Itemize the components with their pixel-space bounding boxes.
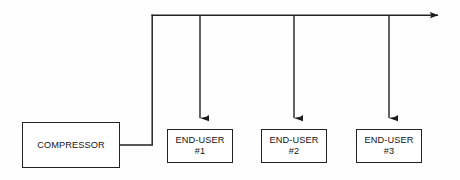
node-enduser-3-label-line-1: END-USER [365, 135, 414, 146]
diagram-canvas: COMPRESSOR END-USER #1 END-USER #2 END-U… [0, 0, 460, 180]
node-enduser-2: END-USER #2 [261, 129, 327, 163]
node-enduser-2-label-line-1: END-USER [270, 135, 319, 146]
node-enduser-3: END-USER #3 [356, 129, 422, 163]
node-compressor: COMPRESSOR [22, 122, 120, 168]
node-enduser-1-label-line-1: END-USER [176, 135, 225, 146]
node-enduser-1: END-USER #1 [167, 129, 233, 163]
node-compressor-label-line-1: COMPRESSOR [37, 140, 104, 151]
compressor-discharge-line [120, 15, 152, 145]
node-enduser-2-label-line-2: #2 [289, 146, 299, 157]
node-enduser-3-label-line-2: #3 [384, 146, 394, 157]
node-enduser-1-label-line-2: #1 [195, 146, 205, 157]
